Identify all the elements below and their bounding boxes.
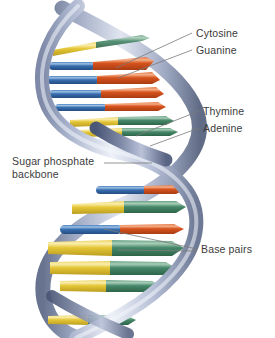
label-backbone-line1: Sugar phosphate: [12, 155, 94, 167]
base-pair-3: [47, 72, 160, 84]
base-pair-6: [70, 116, 174, 127]
base-pair-8: [96, 185, 184, 194]
label-backbone-line2: backbone: [12, 168, 59, 180]
base-pair-4: [49, 87, 164, 98]
dna-diagram: Cytosine Guanine Thymine Adenine Sugar p…: [0, 0, 275, 338]
label-guanine: Guanine: [196, 44, 237, 57]
label-sugar-phosphate-backbone: Sugar phosphate backbone: [12, 155, 116, 180]
label-cytosine: Cytosine: [196, 27, 238, 40]
base-pair-2: [49, 57, 154, 70]
label-base-pairs: Base pairs: [201, 243, 252, 256]
base-pair-9: [72, 201, 186, 214]
base-pair-5: [55, 102, 166, 111]
base-pair-12: [50, 261, 176, 275]
base-pair-11: [48, 240, 184, 256]
label-adenine: Adenine: [203, 122, 243, 135]
label-thymine: Thymine: [203, 105, 244, 118]
